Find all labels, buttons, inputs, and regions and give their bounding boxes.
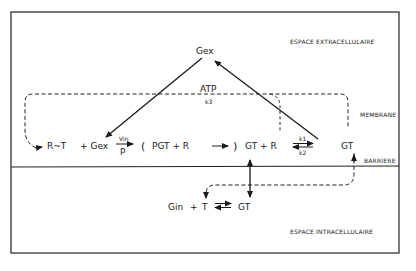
gt-right: GT [341,141,354,151]
label-barrier: BARRIERE [364,157,396,164]
bottom-plus: + [190,202,198,212]
plus-gex: + Gex [80,141,109,151]
atp-label: ATP [200,84,217,94]
arrow-gex-to-reaction [106,58,202,137]
gin-label: Gin [168,202,183,212]
k2-label: k2 [299,149,306,156]
barrier-line [11,166,399,167]
p-label: P [120,147,126,157]
t-label: T [201,202,208,212]
label-intracellular: ESPACE INTRACELLULAIRE [290,228,373,235]
membrane-cycle-path-bottom [206,153,354,197]
pgt-r: PGT + R [152,141,189,151]
open-paren: ( [141,140,145,153]
rt-complex: R~T [47,141,67,151]
arrow-reaction-to-gex [215,61,318,139]
k1-label: k1 [299,135,306,142]
arrow-into-rt [36,147,42,148]
gt-r: GT + R [245,141,277,151]
gt-bottom: GT [238,202,251,212]
vin-label: Vin [119,135,129,142]
close-paren: ) [233,140,237,153]
transport-diagram: ESPACE EXTRACELLULAIRE MEMBRANE BARRIERE… [0,0,416,271]
gex-top: Gex [196,46,214,56]
label-membrane: MEMBRANE [360,111,396,118]
k3-label: k3 [205,98,212,105]
k3-connector [270,94,280,132]
label-extracellular: ESPACE EXTRACELLULAIRE [290,38,375,45]
